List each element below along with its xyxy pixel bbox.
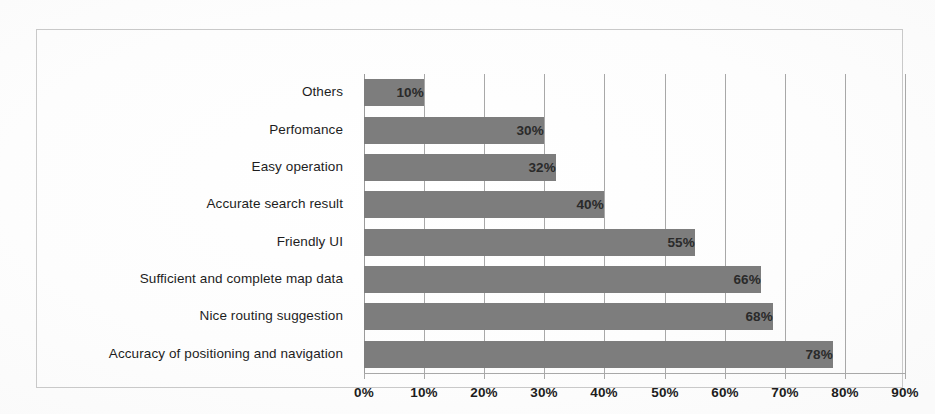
tick-mark-90	[905, 374, 906, 379]
bar-value-label: 30%	[364, 117, 551, 144]
x-axis-tick-labels: 0%10%20%30%40%50%60%70%80%90%	[364, 385, 906, 409]
bar-row: 30%	[364, 117, 905, 144]
x-tick-label: 50%	[651, 385, 679, 400]
tick-mark-10	[424, 374, 425, 379]
tick-mark-30	[544, 374, 545, 379]
tick-mark-80	[845, 374, 846, 379]
category-label: Friendly UI	[277, 234, 343, 249]
x-tick-label: 70%	[771, 385, 799, 400]
category-label: Perfomance	[269, 122, 343, 137]
bar-row: 66%	[364, 266, 905, 293]
bar-row: 55%	[364, 229, 905, 256]
x-tick-label: 30%	[530, 385, 558, 400]
tick-mark-40	[604, 374, 605, 379]
bar-row: 78%	[364, 341, 905, 368]
bar-value-label: 40%	[364, 191, 611, 218]
bar-value-label: 55%	[364, 229, 702, 256]
bar-value-label: 66%	[364, 266, 768, 293]
gridline-90	[905, 74, 906, 373]
bar-row: 40%	[364, 191, 905, 218]
bar-value-label: 32%	[364, 154, 563, 181]
category-label: Accuracy of positioning and navigation	[109, 346, 343, 361]
tick-mark-70	[785, 374, 786, 379]
category-label: Accurate search result	[206, 196, 343, 211]
chart-frame: OthersPerfomanceEasy operationAccurate s…	[36, 29, 903, 388]
category-label: Easy operation	[252, 159, 343, 174]
bar-row: 32%	[364, 154, 905, 181]
bar-row: 10%	[364, 79, 905, 106]
x-tick-label: 40%	[590, 385, 618, 400]
x-tick-label: 20%	[470, 385, 498, 400]
bar-value-label: 68%	[364, 303, 780, 330]
category-label: Sufficient and complete map data	[140, 271, 343, 286]
tick-mark-50	[665, 374, 666, 379]
category-label: Others	[302, 84, 343, 99]
bar-value-label: 10%	[364, 79, 431, 106]
category-label: Nice routing suggestion	[200, 308, 343, 323]
x-tick-label: 0%	[354, 385, 374, 400]
x-tick-label: 80%	[831, 385, 859, 400]
chart-page: OthersPerfomanceEasy operationAccurate s…	[0, 0, 935, 414]
bar-value-label: 78%	[364, 341, 840, 368]
x-axis-line	[364, 373, 906, 374]
tick-mark-60	[725, 374, 726, 379]
plot-area: 10%30%32%40%55%66%68%78%	[364, 74, 905, 373]
bar-row: 68%	[364, 303, 905, 330]
category-axis-labels: OthersPerfomanceEasy operationAccurate s…	[37, 74, 355, 373]
tick-mark-20	[484, 374, 485, 379]
x-tick-label: 10%	[410, 385, 438, 400]
x-tick-label: 90%	[891, 385, 919, 400]
x-tick-label: 60%	[711, 385, 739, 400]
tick-mark-0	[364, 374, 365, 379]
